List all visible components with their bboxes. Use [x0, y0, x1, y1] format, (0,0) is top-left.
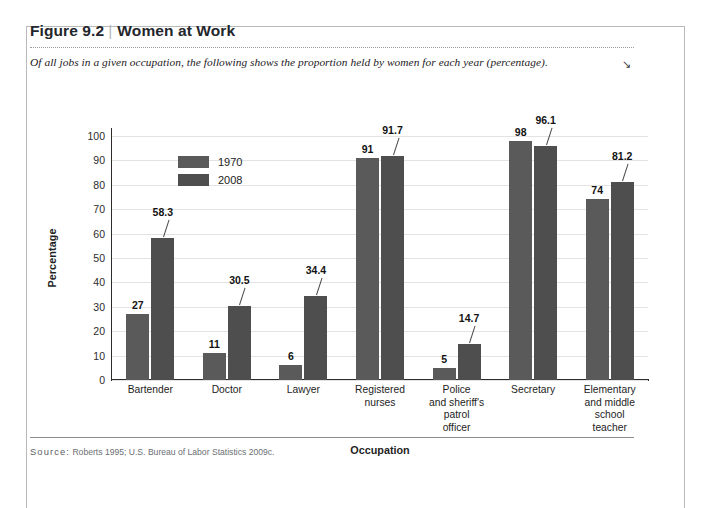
bar-1970[interactable]: [203, 353, 226, 380]
x-axis-category-label: Lawyer: [260, 384, 346, 397]
y-axis-tick: 20: [93, 325, 105, 337]
bar-value-label: 27: [132, 299, 144, 311]
bar-2008[interactable]: [381, 156, 404, 380]
bar-value-label: 6: [288, 350, 294, 362]
chart-legend: 1970 2008: [178, 154, 242, 190]
bar-1970[interactable]: [433, 368, 456, 380]
label-leader-line: [393, 138, 400, 155]
bar-1970[interactable]: [279, 365, 302, 380]
source-rule: [30, 437, 634, 438]
bar-2008[interactable]: [228, 306, 251, 380]
legend-item-1970: 1970: [178, 154, 242, 169]
bar-2008[interactable]: [304, 296, 327, 380]
bar-value-label: 91.7: [382, 124, 402, 136]
source-word: Source:: [30, 446, 70, 457]
y-axis-tick: 50: [93, 252, 105, 264]
figure-header: Figure 9.2|Women at Work Of all jobs in …: [30, 22, 634, 68]
bar-value-label: 30.5: [229, 274, 249, 286]
label-leader-line: [469, 326, 476, 343]
corner-mark-icon: ↘: [622, 60, 630, 68]
bar-2008[interactable]: [151, 238, 174, 380]
bar-group: 9896.1: [509, 136, 557, 380]
bar-chart: Percentage 01020304050607080901002758.31…: [0, 96, 659, 482]
title-dotted-rule: [30, 47, 634, 48]
source-line: Source: Roberts 1995; U.S. Bureau of Lab…: [30, 446, 274, 457]
y-axis-tick: 40: [93, 276, 105, 288]
legend-item-2008: 2008: [178, 172, 242, 187]
bar-value-label: 91: [362, 143, 374, 155]
label-leader-line: [163, 219, 170, 236]
bar-value-label: 14.7: [459, 312, 479, 324]
bar-1970[interactable]: [509, 141, 532, 380]
bar-1970[interactable]: [586, 199, 609, 380]
x-axis-category-label: Secretary: [490, 384, 576, 397]
legend-swatch-2008: [178, 174, 209, 186]
title-separator: |: [104, 22, 117, 39]
y-axis-tick: 80: [93, 179, 105, 191]
y-axis-tick: 30: [93, 301, 105, 313]
label-leader-line: [622, 164, 629, 181]
bar-value-label: 81.2: [612, 150, 632, 162]
y-axis-tick: 0: [99, 374, 105, 386]
bar-value-label: 98: [515, 126, 527, 138]
bar-2008[interactable]: [611, 182, 634, 380]
bar-group: 634.4: [279, 136, 327, 380]
legend-label-2008: 2008: [218, 174, 242, 186]
bar-group: 2758.3: [126, 136, 174, 380]
bar-value-label: 58.3: [153, 206, 173, 218]
y-axis-tick: 70: [93, 203, 105, 215]
bar-value-label: 11: [209, 338, 220, 350]
x-axis-category-label: Elementaryand middleschoolteacher: [567, 384, 653, 434]
bar-group: 514.7: [433, 136, 481, 380]
label-leader-line: [546, 127, 553, 144]
bar-value-label: 74: [591, 184, 603, 196]
legend-label-1970: 1970: [218, 156, 242, 168]
figure-title-text: Women at Work: [117, 22, 235, 39]
label-leader-line: [316, 278, 323, 295]
legend-swatch-1970: [178, 156, 209, 168]
bar-2008[interactable]: [458, 344, 481, 380]
y-axis-tick: 10: [93, 350, 105, 362]
bar-group: 9191.7: [356, 136, 404, 380]
figure-subtitle: Of all jobs in a given occupation, the f…: [30, 56, 634, 68]
figure-title: Figure 9.2|Women at Work: [30, 22, 634, 40]
y-axis-tick: 60: [93, 228, 105, 240]
y-axis-tick: 100: [87, 130, 105, 142]
gridline: [112, 380, 648, 381]
y-axis-label: Percentage: [46, 136, 60, 380]
bar-2008[interactable]: [534, 146, 557, 380]
x-axis-category-label: Bartender: [107, 384, 193, 397]
x-axis-category-label: Policeand sheriff'spatrolofficer: [414, 384, 500, 434]
y-axis-tick: 90: [93, 154, 105, 166]
label-leader-line: [239, 287, 246, 304]
bar-1970[interactable]: [356, 158, 379, 380]
x-axis-category-label: Doctor: [184, 384, 270, 397]
bar-value-label: 34.4: [306, 264, 326, 276]
source-text: Roberts 1995; U.S. Bureau of Labor Stati…: [72, 447, 274, 457]
bar-value-label: 5: [441, 353, 447, 365]
bar-1970[interactable]: [126, 314, 149, 380]
x-axis-category-label: Registerednurses: [337, 384, 423, 409]
figure-number: Figure 9.2: [30, 22, 104, 39]
bar-group: 7481.2: [586, 136, 634, 380]
bar-value-label: 96.1: [535, 114, 555, 126]
